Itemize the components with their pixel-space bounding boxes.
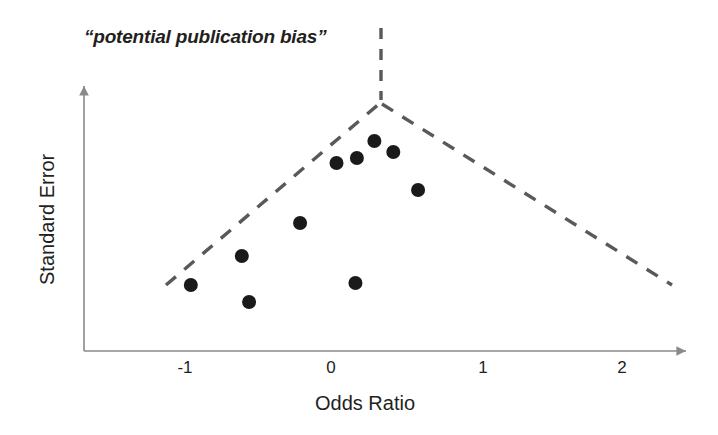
x-tick-2: 2 <box>602 358 642 378</box>
data-point <box>411 183 425 197</box>
data-point <box>348 276 362 290</box>
x-tick--1: -1 <box>165 358 205 378</box>
y-axis-title: Standard Error <box>36 154 59 285</box>
data-point <box>293 216 307 230</box>
funnel-guides <box>166 28 672 285</box>
data-point <box>242 295 256 309</box>
data-point <box>235 249 249 263</box>
funnel-right-arm <box>382 104 672 285</box>
x-axis-title: Odds Ratio <box>315 392 415 415</box>
funnel-plot-figure: “potential publication bias” Standard Er… <box>0 0 718 435</box>
data-point <box>386 145 400 159</box>
data-point <box>184 278 198 292</box>
data-points-layer <box>184 134 425 309</box>
data-point <box>329 156 343 170</box>
publication-bias-annotation: “potential publication bias” <box>84 26 326 48</box>
x-tick-1: 1 <box>463 358 503 378</box>
axis-lines <box>84 86 686 351</box>
data-point <box>350 151 364 165</box>
data-point <box>367 134 381 148</box>
x-tick-0: 0 <box>311 358 351 378</box>
funnel-left-arm <box>166 104 379 285</box>
